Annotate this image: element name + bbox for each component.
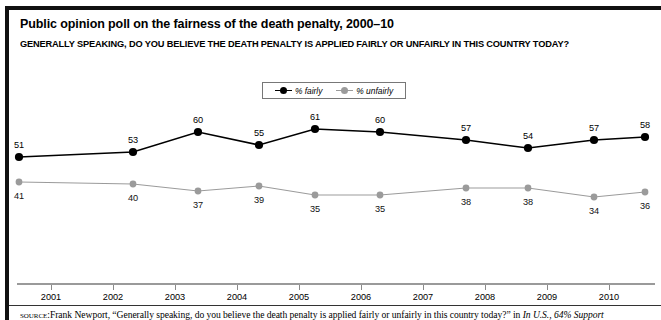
legend-marker-unfairly-icon xyxy=(336,87,353,94)
x-axis-tick-label: 2004 xyxy=(227,292,247,302)
data-point-marker[interactable] xyxy=(256,183,263,190)
legend-item-unfairly[interactable]: % unfairly xyxy=(336,86,393,96)
x-axis-tick-mark xyxy=(51,285,52,290)
data-value-label: 57 xyxy=(461,124,471,133)
data-point-marker[interactable] xyxy=(591,194,598,201)
data-value-label: 35 xyxy=(310,205,320,214)
data-point-marker[interactable] xyxy=(462,136,470,144)
source-publication: In U.S., 64% Support xyxy=(523,309,604,320)
x-axis-tick-label: 2003 xyxy=(165,292,185,302)
data-point-marker[interactable] xyxy=(15,153,23,161)
data-point-marker[interactable] xyxy=(195,188,202,195)
series-line-fairly xyxy=(19,129,645,157)
data-value-label: 38 xyxy=(523,198,533,207)
x-axis-tick-label: 2001 xyxy=(41,292,61,302)
x-axis-tick-label: 2005 xyxy=(289,292,309,302)
data-value-label: 58 xyxy=(640,121,650,130)
data-point-marker[interactable] xyxy=(311,125,319,133)
x-axis-tick-mark xyxy=(113,285,114,290)
data-point-marker[interactable] xyxy=(130,181,137,188)
x-axis-tick-mark xyxy=(423,285,424,290)
data-point-marker[interactable] xyxy=(641,133,649,141)
x-axis-tick-mark xyxy=(361,285,362,290)
x-axis-tick-mark xyxy=(299,285,300,290)
data-point-marker[interactable] xyxy=(16,179,23,186)
data-point-marker[interactable] xyxy=(463,185,470,192)
series-line-unfairly xyxy=(19,182,645,197)
data-point-marker[interactable] xyxy=(642,189,649,196)
data-value-label: 38 xyxy=(461,198,471,207)
chart-legend: % fairly % unfairly xyxy=(262,82,406,99)
x-axis-tick-label: 2009 xyxy=(537,292,557,302)
data-value-label: 36 xyxy=(640,202,650,211)
x-axis-tick-label: 2010 xyxy=(599,292,619,302)
x-axis-tick-label: 2002 xyxy=(103,292,123,302)
x-axis-tick-mark xyxy=(175,285,176,290)
legend-label-fairly: % fairly xyxy=(295,86,322,96)
data-value-label: 40 xyxy=(128,194,138,203)
x-axis-tick-mark xyxy=(237,285,238,290)
data-value-label: 57 xyxy=(589,124,599,133)
source-body: Frank Newport, “Generally speaking, do y… xyxy=(50,309,523,320)
data-point-marker[interactable] xyxy=(194,128,202,136)
legend-item-fairly[interactable]: % fairly xyxy=(275,86,322,96)
figure-container: Public opinion poll on the fairness of t… xyxy=(0,0,661,320)
chart-plot-area xyxy=(0,0,661,320)
x-axis-tick-label: 2007 xyxy=(413,292,433,302)
source-label: source: xyxy=(20,309,50,320)
legend-marker-fairly-icon xyxy=(275,87,292,94)
data-value-label: 37 xyxy=(193,201,203,210)
data-point-marker[interactable] xyxy=(524,144,532,152)
data-value-label: 61 xyxy=(310,113,320,122)
chart-svg xyxy=(0,0,661,320)
data-point-marker[interactable] xyxy=(255,141,263,149)
x-axis-tick-label: 2008 xyxy=(475,292,495,302)
source-note: source:Frank Newport, “Generally speakin… xyxy=(20,309,604,320)
data-value-label: 51 xyxy=(14,141,24,150)
data-point-marker[interactable] xyxy=(377,192,384,199)
x-axis-tick-mark xyxy=(485,285,486,290)
data-value-label: 35 xyxy=(375,205,385,214)
data-point-marker[interactable] xyxy=(129,148,137,156)
data-value-label: 60 xyxy=(193,116,203,125)
data-value-label: 53 xyxy=(128,136,138,145)
data-value-label: 54 xyxy=(523,132,533,141)
data-value-label: 41 xyxy=(14,192,24,201)
x-axis-tick-label: 2006 xyxy=(351,292,371,302)
data-point-marker[interactable] xyxy=(376,128,384,136)
data-value-label: 34 xyxy=(589,207,599,216)
data-value-label: 60 xyxy=(375,116,385,125)
data-point-marker[interactable] xyxy=(312,192,319,199)
data-value-label: 55 xyxy=(254,129,264,138)
data-value-label: 39 xyxy=(254,196,264,205)
source-divider xyxy=(9,305,661,306)
data-point-marker[interactable] xyxy=(590,136,598,144)
x-axis-tick-mark xyxy=(547,285,548,290)
legend-label-unfairly: % unfairly xyxy=(356,86,393,96)
x-axis-tick-mark xyxy=(609,285,610,290)
data-point-marker[interactable] xyxy=(525,185,532,192)
